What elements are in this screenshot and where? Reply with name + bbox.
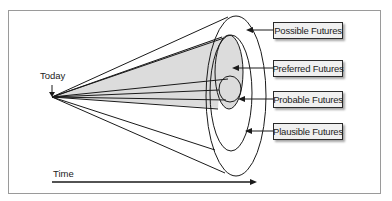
time-axis-arrowhead bbox=[250, 179, 257, 185]
probable-futures-label: Probable Futures bbox=[273, 91, 343, 108]
possible-cone-bottom-edge bbox=[52, 97, 225, 173]
preferred-futures-label: Preferred Futures bbox=[273, 60, 343, 77]
today-label: Today bbox=[40, 70, 65, 81]
possible-arrowhead bbox=[246, 27, 253, 33]
plausible-futures-label: Plausible Futures bbox=[273, 123, 343, 140]
time-axis-label: Time bbox=[53, 168, 74, 179]
possible-futures-label: Possible Futures bbox=[273, 22, 343, 39]
